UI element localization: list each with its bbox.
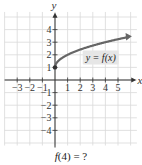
svg-text:1: 1 <box>65 82 70 93</box>
svg-text:−1: −1 <box>41 87 52 98</box>
curve-label: y = f(x) <box>83 50 119 64</box>
svg-text:4: 4 <box>47 24 52 35</box>
graph: xy −3−2−112345−4−3−2−11234 y = f(x) <box>0 0 142 150</box>
svg-text:−3: −3 <box>41 112 52 123</box>
svg-text:−4: −4 <box>41 125 52 136</box>
svg-text:2: 2 <box>47 49 52 60</box>
question-caption: f(4) = ? <box>0 150 142 162</box>
svg-text:y = f(x): y = f(x) <box>85 52 117 64</box>
svg-text:4: 4 <box>103 82 108 93</box>
start-point <box>53 65 57 69</box>
svg-text:3: 3 <box>47 37 52 48</box>
svg-text:1: 1 <box>47 62 52 73</box>
grid-lines <box>5 12 137 146</box>
x-axis-label: x <box>137 74 142 86</box>
svg-text:−2: −2 <box>24 82 35 93</box>
svg-text:3: 3 <box>90 82 95 93</box>
y-axis-label: y <box>51 0 57 11</box>
axes: xy <box>5 0 142 148</box>
svg-text:−2: −2 <box>41 100 52 111</box>
svg-text:5: 5 <box>116 82 121 93</box>
caption-text: (4) = ? <box>58 150 87 162</box>
svg-text:2: 2 <box>78 82 83 93</box>
svg-text:−3: −3 <box>12 82 23 93</box>
